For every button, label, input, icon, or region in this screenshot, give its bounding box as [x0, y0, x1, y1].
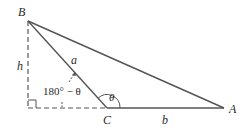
height-label-h: h [17, 59, 23, 73]
vertex-label-b: B [18, 5, 26, 19]
theta-label: θ [109, 91, 115, 103]
exterior-angle-label: 180° − θ [43, 85, 81, 97]
triangle-diagram: B C A a b h θ 180° − θ [0, 0, 245, 128]
right-angle-marker [28, 100, 36, 108]
vertex-label-a: A [228, 102, 237, 116]
side-label-a: a [71, 53, 77, 67]
side-label-b: b [162, 113, 168, 127]
vertex-label-c: C [103, 113, 112, 127]
diagram-svg: B C A a b h θ 180° − θ [0, 0, 245, 128]
